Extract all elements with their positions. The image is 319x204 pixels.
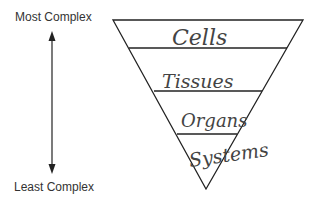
level-label-cells: Cells [172, 25, 227, 50]
level-label-organs: Organs [181, 110, 247, 131]
level-label-tissues: Tissues [162, 70, 234, 92]
level-label-systems: Systems [187, 138, 270, 171]
double-arrow-icon [49, 31, 56, 174]
complexity-diagram: Cells Tissues Organs Systems [0, 0, 319, 204]
